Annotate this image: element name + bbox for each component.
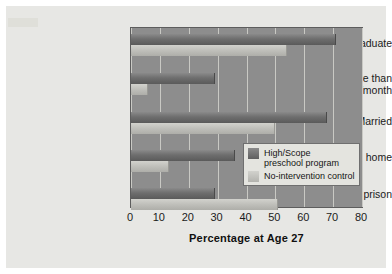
xtick-label-40: 40 xyxy=(234,211,258,223)
xtick-label-70: 70 xyxy=(320,211,344,223)
bar-control-own-own-home xyxy=(131,161,169,172)
xtick-label-60: 60 xyxy=(291,211,315,223)
bar-treatment-own-own-home xyxy=(131,150,235,161)
bar-treatment-married xyxy=(131,112,327,123)
bar-treatment-earning-more-than xyxy=(131,73,215,84)
bar-control-married xyxy=(131,123,275,134)
bar-control-spent-time-in-prison xyxy=(131,199,278,210)
legend-label-control: No-intervention control xyxy=(264,171,355,181)
bar-control-earning-more-than xyxy=(131,84,148,95)
xtick-label-0: 0 xyxy=(118,211,142,223)
chart-figure: High school graduate Earning more than $… xyxy=(0,0,392,274)
xtick-label-80: 80 xyxy=(349,211,373,223)
xtick-label-10: 10 xyxy=(147,211,171,223)
legend-swatch-control-icon xyxy=(248,171,259,182)
xtick-label-30: 30 xyxy=(205,211,229,223)
legend-entry-control: No-intervention control xyxy=(248,171,355,182)
bar-treatment-spent-time-in-prison xyxy=(131,188,215,199)
legend-label-line: High/Scope xyxy=(264,148,339,158)
legend-label-line: preschool program xyxy=(264,158,339,168)
legend-swatch-treatment-icon xyxy=(248,148,259,159)
xtick-label-50: 50 xyxy=(262,211,286,223)
chart-legend: High/Scope preschool program No-interven… xyxy=(243,143,360,186)
legend-label-treatment: High/Scope preschool program xyxy=(264,148,339,168)
legend-label-line: No-intervention control xyxy=(264,171,355,181)
x-axis-title: Percentage at Age 27 xyxy=(130,232,363,244)
gridline-80 xyxy=(362,28,363,207)
bar-control-high-school-graduate xyxy=(131,45,287,56)
bar-treatment-high-school-graduate xyxy=(131,34,336,45)
scan-artifact xyxy=(8,18,38,27)
legend-entry-treatment: High/Scope preschool program xyxy=(248,148,355,168)
xtick-label-20: 20 xyxy=(176,211,200,223)
